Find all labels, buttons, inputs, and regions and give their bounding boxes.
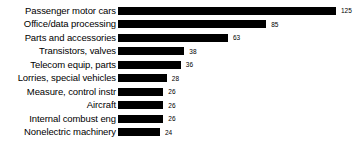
bar (118, 61, 181, 69)
bar-value-label: 125 (341, 7, 352, 14)
bar-value-label: 26 (168, 115, 175, 122)
bar-value-label: 38 (189, 48, 196, 55)
chart-row: Parts and accessories 63 (0, 31, 361, 45)
bar (118, 34, 228, 42)
chart-row: Nonelectric machinery 24 (0, 126, 361, 140)
bar-area: 125 (118, 4, 361, 18)
category-label: Internal combust eng (0, 114, 118, 124)
bar-area: 63 (118, 31, 361, 45)
category-label: Measure, control instr (0, 87, 118, 97)
chart-row: Internal combust eng 26 (0, 112, 361, 126)
bar-area: 26 (118, 99, 361, 113)
bar-area: 28 (118, 72, 361, 86)
bar (118, 74, 167, 82)
category-label: Passenger motor cars (0, 6, 118, 16)
bar-value-label: 36 (186, 61, 193, 68)
bar-value-label: 85 (271, 21, 278, 28)
bar-area: 85 (118, 18, 361, 32)
bar-area: 24 (118, 126, 361, 140)
category-label: Transistors, valves (0, 46, 118, 56)
bar-value-label: 28 (172, 75, 179, 82)
bar (118, 20, 266, 28)
category-label: Parts and accessories (0, 33, 118, 43)
bar-area: 26 (118, 85, 361, 99)
bar (118, 115, 163, 123)
chart-row: Measure, control instr 26 (0, 85, 361, 99)
bar-value-label: 26 (168, 88, 175, 95)
chart-row: Lorries, special vehicles 28 (0, 72, 361, 86)
bar (118, 47, 184, 55)
chart-row: Transistors, valves 38 (0, 45, 361, 59)
category-label: Nonelectric machinery (0, 127, 118, 137)
category-label: Aircraft (0, 100, 118, 110)
chart-row: Telecom equip, parts 36 (0, 58, 361, 72)
bar-area: 26 (118, 112, 361, 126)
horizontal-bar-chart: Passenger motor cars 125 Office/data pro… (0, 0, 361, 147)
bar-area: 36 (118, 58, 361, 72)
bar (118, 101, 163, 109)
bar (118, 88, 163, 96)
category-label: Lorries, special vehicles (0, 73, 118, 83)
bar (118, 128, 160, 136)
chart-row: Aircraft 26 (0, 99, 361, 113)
category-label: Office/data processing (0, 19, 118, 29)
chart-row: Passenger motor cars 125 (0, 4, 361, 18)
bar-value-label: 63 (233, 34, 240, 41)
bar (118, 7, 336, 15)
bar-value-label: 26 (168, 102, 175, 109)
category-label: Telecom equip, parts (0, 60, 118, 70)
bar-area: 38 (118, 45, 361, 59)
bar-value-label: 24 (165, 129, 172, 136)
chart-row: Office/data processing 85 (0, 18, 361, 32)
